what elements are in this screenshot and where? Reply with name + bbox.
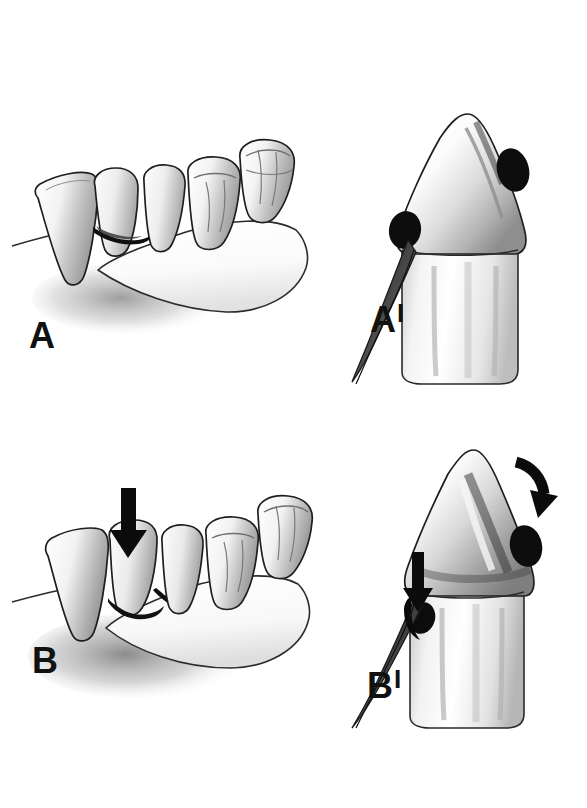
panel-b-artwork [10,470,330,720]
panel-a [10,120,330,370]
tooth-second-molar [258,496,312,579]
panel-b [10,470,330,720]
panel-a-prime-artwork [350,100,587,390]
tooth-root [402,250,518,384]
panel-label-b-letter: B [32,640,58,681]
figure-root: A AI B BI [0,0,587,808]
panel-label-b-prime-letter: B [367,665,393,706]
panel-label-b: B [32,643,58,682]
panel-label-a: A [29,318,55,357]
panel-label-a-prime-letter: A [370,299,396,340]
panel-a-prime [350,100,587,390]
cut-off-header-text [0,0,587,9]
panel-label-b-prime-mark: I [394,664,401,694]
panel-label-a-prime-mark: I [397,298,404,328]
panel-label-a-letter: A [29,315,55,356]
panel-a-artwork [10,120,330,370]
panel-label-b-prime: BI [367,668,400,707]
panel-label-a-prime: AI [370,302,403,341]
displacement-arrow [516,462,558,518]
tooth-second-molar [240,140,294,223]
